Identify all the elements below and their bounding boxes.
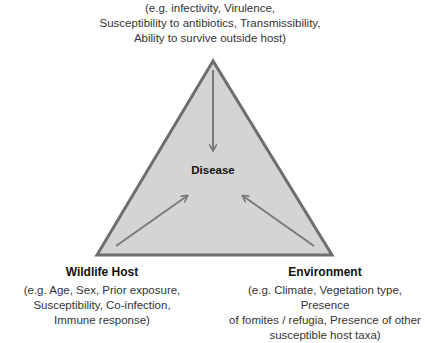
environment-description-line: (e.g. Climate, Vegetation type, Presence — [225, 283, 425, 313]
host-title: Wildlife Host — [2, 265, 202, 280]
host-description-line: (e.g. Age, Sex, Prior exposure, — [2, 283, 202, 298]
environment-description-line: of fomites / refugia, Presence of other — [225, 313, 425, 328]
host-description-line: Immune response) — [2, 313, 202, 328]
clipped-caption-line — [0, 337, 419, 343]
disease-label: Disease — [163, 164, 263, 176]
host-factors: Wildlife Host (e.g. Age, Sex, Prior expo… — [2, 265, 202, 328]
environment-title: Environment — [225, 265, 425, 280]
triangle-shape — [97, 61, 332, 255]
host-description-line: Susceptibility, Co-infection, — [2, 298, 202, 313]
environment-factors: Environment (e.g. Climate, Vegetation ty… — [225, 265, 425, 343]
